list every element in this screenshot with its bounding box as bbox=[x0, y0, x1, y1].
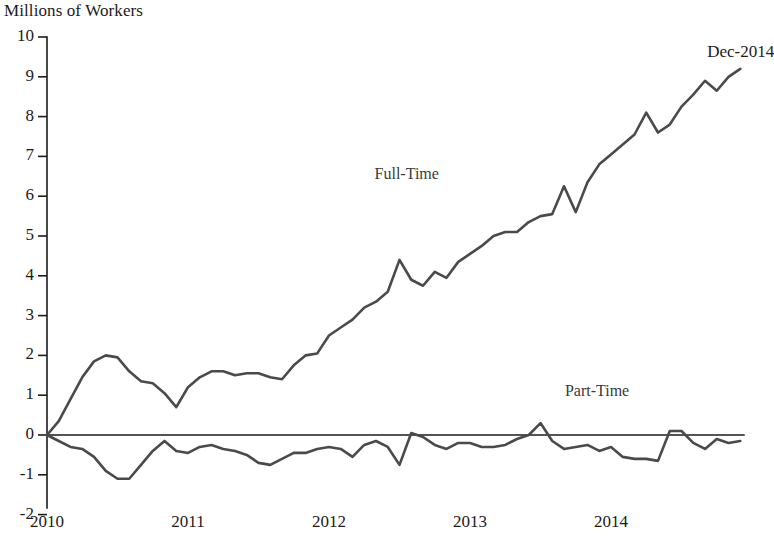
y-axis-tick-label: 6 bbox=[0, 185, 34, 205]
y-axis-tick-label: 4 bbox=[0, 265, 34, 285]
y-axis-tick-label: 2 bbox=[0, 344, 34, 364]
y-axis-tick-label: 1 bbox=[0, 384, 34, 404]
axis-group bbox=[38, 37, 47, 515]
x-axis-tick-label: 2010 bbox=[12, 512, 82, 532]
y-axis-tick-label: 0 bbox=[0, 424, 34, 444]
y-axis-tick-label: 9 bbox=[0, 66, 34, 86]
y-axis-tick-label: 3 bbox=[0, 305, 34, 325]
x-axis-tick-label: 2011 bbox=[153, 512, 223, 532]
y-axis-tick-label: 7 bbox=[0, 145, 34, 165]
y-axis-tick-label: 8 bbox=[0, 106, 34, 126]
series-label-full-time: Full-Time bbox=[375, 165, 439, 183]
x-axis-tick-label: 2013 bbox=[435, 512, 505, 532]
y-axis-tick-label: 10 bbox=[0, 26, 34, 46]
y-axis-tick-label: -1 bbox=[0, 464, 34, 484]
series-line-part-time bbox=[47, 423, 740, 479]
series-lines bbox=[47, 69, 740, 479]
series-line-full-time bbox=[47, 69, 740, 435]
y-axis-tick-label: 5 bbox=[0, 225, 34, 245]
x-axis-tick-label: 2014 bbox=[576, 512, 646, 532]
end-point-annotation: Dec-2014 bbox=[707, 42, 774, 62]
series-label-part-time: Part-Time bbox=[565, 382, 629, 400]
x-axis-tick-label: 2012 bbox=[294, 512, 364, 532]
